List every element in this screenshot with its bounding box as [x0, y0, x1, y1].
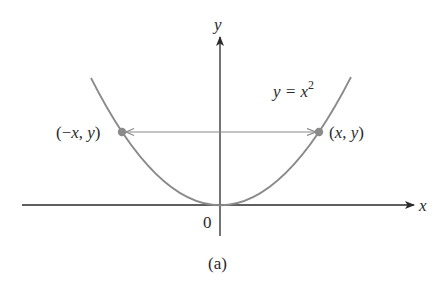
figure-caption: (a): [208, 254, 227, 273]
point-left-label: (−x, y): [56, 123, 101, 142]
point-right-label: (x, y): [329, 123, 364, 142]
point-left: [118, 128, 126, 136]
point-right: [315, 128, 323, 136]
x-axis-label: x: [418, 196, 427, 215]
equation-label: y = x2: [271, 78, 314, 101]
parabola-curve: [91, 77, 351, 205]
y-axis-label: y: [212, 15, 222, 34]
parabola-symmetry-figure: y x 0 y = x2 (−x, y) (x, y) (a): [0, 0, 444, 291]
origin-label: 0: [203, 213, 212, 232]
